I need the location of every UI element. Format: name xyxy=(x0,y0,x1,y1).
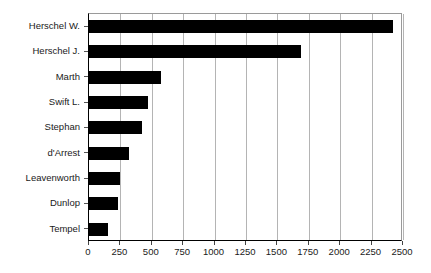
bar-row xyxy=(89,191,118,216)
x-tick-1250 xyxy=(245,241,246,245)
x-tick-500 xyxy=(151,241,152,245)
y-axis-label-1: Herschel J. xyxy=(32,38,84,63)
x-tick-2250 xyxy=(371,241,372,245)
x-tick-1750 xyxy=(308,241,309,245)
bar-chart: Herschel W. Herschel J. Marth Swift L. S… xyxy=(0,0,431,273)
bar-row xyxy=(89,115,142,140)
x-tick-label-2000: 2000 xyxy=(329,246,350,257)
bar-row xyxy=(89,217,108,242)
y-axis-label-8: Tempel xyxy=(49,216,84,241)
x-tick-2500 xyxy=(402,241,403,245)
bar-5 xyxy=(89,147,129,160)
bar-4 xyxy=(89,121,142,134)
x-tick-label-0: 0 xyxy=(85,246,90,257)
x-tick-label-2500: 2500 xyxy=(391,246,412,257)
x-tick-0 xyxy=(88,241,89,245)
bars-layer xyxy=(89,14,401,240)
x-tick-label-2250: 2250 xyxy=(360,246,381,257)
bar-row xyxy=(89,141,129,166)
x-tick-label-1750: 1750 xyxy=(297,246,318,257)
bar-1 xyxy=(89,45,301,58)
y-axis-label-7: Dunlop xyxy=(50,190,84,215)
x-tick-250 xyxy=(119,241,120,245)
y-axis-label-5: d'Arrest xyxy=(48,140,84,165)
bar-row xyxy=(89,90,148,115)
bar-8 xyxy=(89,223,108,236)
x-tick-label-1000: 1000 xyxy=(203,246,224,257)
bar-0 xyxy=(89,20,393,33)
x-tick-label-1250: 1250 xyxy=(234,246,255,257)
bar-row xyxy=(89,39,301,64)
y-axis-label-6: Leavenworth xyxy=(26,165,84,190)
x-tick-label-250: 250 xyxy=(111,246,127,257)
x-tick-label-500: 500 xyxy=(143,246,159,257)
y-axis-category-labels: Herschel W. Herschel J. Marth Swift L. S… xyxy=(0,13,84,241)
x-tick-label-1500: 1500 xyxy=(266,246,287,257)
bar-row xyxy=(89,65,161,90)
y-axis-label-3: Swift L. xyxy=(49,89,84,114)
x-tick-2000 xyxy=(339,241,340,245)
bar-6 xyxy=(89,172,120,185)
gridline-2500 xyxy=(403,14,404,240)
x-tick-label-750: 750 xyxy=(174,246,190,257)
y-axis-label-4: Stephan xyxy=(45,114,84,139)
bar-7 xyxy=(89,197,118,210)
x-tick-1000 xyxy=(214,241,215,245)
x-tick-1500 xyxy=(276,241,277,245)
bar-row xyxy=(89,166,120,191)
bar-3 xyxy=(89,96,148,109)
y-axis-label-2: Marth xyxy=(56,64,84,89)
plot-area xyxy=(88,13,402,241)
bar-row xyxy=(89,14,393,39)
x-tick-750 xyxy=(182,241,183,245)
y-axis-label-0: Herschel W. xyxy=(29,13,84,38)
bar-2 xyxy=(89,71,161,84)
